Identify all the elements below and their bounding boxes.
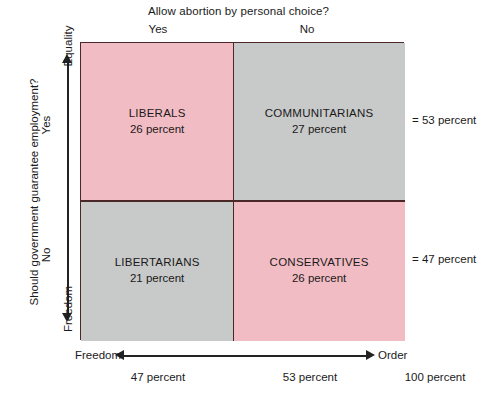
row-header-no: No — [40, 225, 52, 285]
quadrant-libertarians[interactable]: LIBERTARIANS 21 percent — [81, 201, 233, 341]
quadrant-communitarians-value: 27 percent — [292, 122, 346, 138]
row-header-yes: Yes — [40, 95, 52, 155]
quadrant-liberals-value: 26 percent — [130, 122, 184, 138]
quadrant-liberals-name: LIBERALS — [129, 106, 186, 122]
quadrant-conservatives-value: 26 percent — [292, 271, 346, 287]
typology-matrix: LIBERALS 26 percent COMMUNITARIANS 27 pe… — [80, 42, 404, 340]
arrow-right-icon — [366, 350, 375, 360]
column-total-right: 53 percent — [255, 371, 365, 383]
vertical-axis-label-equality: Equality — [62, 6, 74, 86]
horizontal-axis-line — [124, 355, 366, 357]
column-header-no: No — [257, 23, 357, 35]
quadrant-conservatives[interactable]: CONSERVATIVES 26 percent — [233, 201, 405, 341]
matrix-divider-horizontal — [81, 200, 405, 202]
grand-total: 100 percent — [380, 371, 477, 383]
quadrant-conservatives-name: CONSERVATIVES — [270, 255, 369, 271]
quadrant-libertarians-name: LIBERTARIANS — [115, 255, 200, 271]
matrix-divider-vertical — [233, 43, 235, 341]
quadrant-liberals[interactable]: LIBERALS 26 percent — [81, 43, 233, 201]
row-question-label: Should government guarantee employment? — [28, 47, 40, 337]
quadrant-communitarians-name: COMMUNITARIANS — [265, 106, 374, 122]
row-total-bottom: = 47 percent — [412, 253, 476, 265]
quadrant-communitarians[interactable]: COMMUNITARIANS 27 percent — [233, 43, 405, 201]
horizontal-axis-label-order: Order — [378, 349, 407, 361]
column-header-yes: Yes — [108, 23, 208, 35]
row-total-top: = 53 percent — [412, 114, 476, 126]
column-total-left: 47 percent — [103, 371, 213, 383]
vertical-axis-label-freedom: Freedom — [62, 269, 74, 349]
quadrant-libertarians-value: 21 percent — [130, 271, 184, 287]
horizontal-axis-label-freedom: Freedom — [75, 349, 121, 361]
